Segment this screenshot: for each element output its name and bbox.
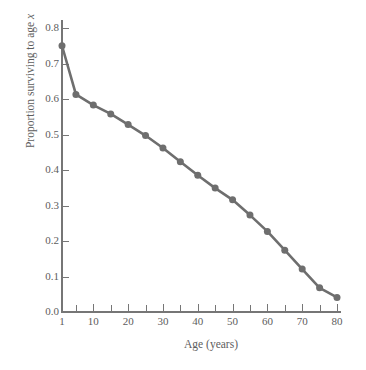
survivorship-line <box>62 46 337 298</box>
data-series-layer <box>0 0 366 370</box>
survivorship-markers <box>59 42 341 301</box>
x-axis-title: Age (years) <box>0 338 366 350</box>
survivorship-curve-figure: 0.00.10.20.30.40.50.60.70.8 110203040506… <box>0 0 366 370</box>
y-axis-title-variable: x <box>24 14 36 19</box>
y-axis-title: Proportion surviving to age x <box>24 0 36 191</box>
y-axis-title-text: Proportion surviving to age <box>24 19 36 148</box>
